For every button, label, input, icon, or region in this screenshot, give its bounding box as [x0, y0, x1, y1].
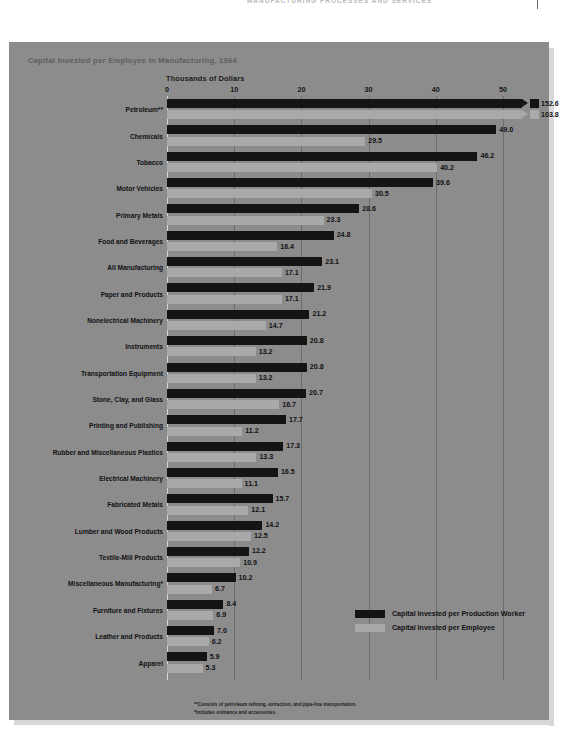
footnote: *Includes ordnance and accessories. — [194, 709, 357, 717]
chart-legend: Capital Invested per Production WorkerCa… — [355, 608, 525, 636]
chart-footnotes: **Consists of petroleum refining, extrac… — [194, 701, 357, 717]
legend-label: Capital Invested per Production Worker — [392, 610, 525, 618]
legend-item: Capital Invested per Employee — [355, 622, 525, 633]
panel-shadow-bottom — [14, 720, 554, 725]
legend-swatch-icon — [355, 624, 385, 632]
running-head-title: MANUFACTURING PROCESSES AND SERVICES — [247, 0, 432, 4]
legend-item: Capital Invested per Production Worker — [355, 608, 525, 619]
chart-axis-unit-label: Thousands of Dollars — [166, 74, 245, 83]
chart-title: Capital Invested per Employee in Manufac… — [28, 56, 237, 65]
running-head-rule — [537, 0, 538, 9]
legend-swatch-icon — [355, 610, 385, 618]
panel-shadow-right — [549, 48, 554, 726]
running-head: MANUFACTURING PROCESSES AND SERVICES — [0, 0, 568, 14]
legend-label: Capital Invested per Employee — [392, 624, 495, 632]
footnote: **Consists of petroleum refining, extrac… — [194, 701, 357, 709]
